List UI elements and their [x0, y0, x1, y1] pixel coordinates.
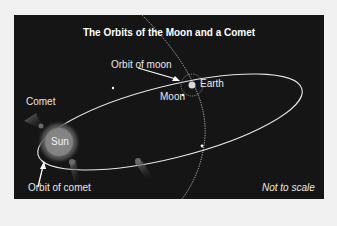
orbit-of-comet-label: Orbit of comet — [28, 183, 91, 193]
sun-label: Sun — [51, 137, 69, 147]
comet-icon — [135, 158, 154, 178]
comet-label: Comet — [26, 97, 55, 107]
moon-label: Moon — [160, 92, 185, 102]
earth-label: Earth — [200, 79, 224, 89]
comet-icon — [24, 113, 44, 130]
diagram-canvas — [14, 15, 324, 199]
earth-icon — [189, 82, 196, 89]
diagram-title: The Orbits of the Moon and a Comet — [14, 28, 324, 38]
orbit-marker-dot — [112, 87, 114, 89]
orbit-intersection-dot — [201, 145, 204, 148]
scale-note: Not to scale — [262, 183, 315, 193]
diagram-panel: The Orbits of the Moon and a Comet Orbit… — [14, 15, 324, 199]
orbit-of-moon-label: Orbit of moon — [111, 60, 172, 70]
